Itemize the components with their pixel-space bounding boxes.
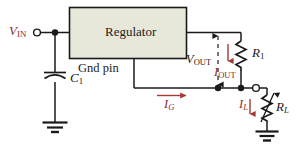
label-i-out: IOUT — [214, 66, 236, 79]
ground-load — [256, 132, 279, 141]
terminal-vin — [34, 29, 41, 36]
label-r1: R1 — [252, 46, 264, 59]
junction-vout — [215, 85, 221, 91]
capacitor-c1 — [44, 73, 66, 79]
label-regulator: Regulator — [105, 25, 156, 38]
resistor-r1 — [236, 41, 246, 71]
label-rl: RL — [276, 100, 289, 113]
terminal-load — [253, 85, 260, 92]
label-v-in: VIN — [9, 24, 26, 37]
schematic-svg — [0, 0, 296, 151]
ground-input — [43, 123, 68, 133]
circuit-diagram-canvas: VIN Regulator C1 Gnd pin IG VOUT IOUT R1… — [0, 0, 296, 151]
label-i-g: IG — [164, 98, 174, 111]
label-i-l: IL — [239, 98, 248, 111]
label-gnd-pin: Gnd pin — [78, 62, 119, 75]
junction-load — [238, 85, 244, 91]
label-v-out: VOUT — [186, 53, 211, 66]
